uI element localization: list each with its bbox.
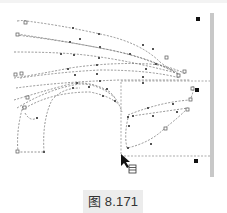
vector-drawing-canvas[interactable] [0,0,227,213]
list-icon [129,165,136,173]
handle-bottom-right [194,159,198,163]
path-curves [14,21,193,153]
marquee-selection-box[interactable] [121,81,212,156]
selection-handles[interactable] [194,17,200,163]
path-nodes[interactable] [36,27,178,153]
handle-top-right [196,17,200,21]
side-scroll-bar[interactable] [210,13,214,177]
figure-caption: 图 8.171 [83,190,143,213]
control-points[interactable] [14,21,194,153]
handle-middle-right [195,88,199,92]
